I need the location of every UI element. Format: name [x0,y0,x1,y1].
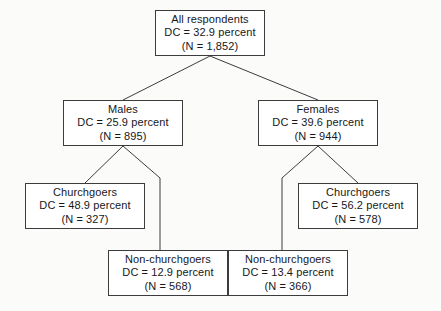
node-males-churchgoers-dc: DC = 48.9 percent [39,199,130,213]
node-females-label: Females [297,103,340,117]
node-all-respondents-dc: DC = 32.9 percent [164,26,255,40]
node-males-n: (N = 895) [99,130,146,144]
edge-females-to-churchgoers [318,146,358,183]
node-males-non-churchgoers: Non-churchgoers DC = 12.9 percent (N = 5… [108,250,228,296]
node-females-n: (N = 944) [294,130,341,144]
node-males-non-churchgoers-dc: DC = 12.9 percent [122,266,213,280]
edge-all-respondents-to-males [123,56,210,100]
node-males-non-churchgoers-n: (N = 568) [144,280,191,294]
node-males-churchgoers-label: Churchgoers [53,186,117,200]
node-females-churchgoers-dc: DC = 56.2 percent [312,199,403,213]
node-females-churchgoers-label: Churchgoers [326,186,390,200]
node-males-dc: DC = 25.9 percent [77,116,168,130]
edge-all-respondents-to-females [210,56,318,100]
node-males-non-churchgoers-label: Non-churchgoers [125,253,211,267]
node-all-respondents-label: All respondents [171,13,248,27]
node-females-non-churchgoers: Non-churchgoers DC = 13.4 percent (N = 3… [228,250,348,296]
node-males-churchgoers-n: (N = 327) [61,213,108,227]
node-females-churchgoers: Churchgoers DC = 56.2 percent (N = 578) [298,183,418,229]
node-males-label: Males [108,103,138,117]
node-females-non-churchgoers-n: (N = 366) [264,280,311,294]
tree-diagram: All respondents DC = 32.9 percent (N = 1… [0,0,441,311]
node-all-respondents: All respondents DC = 32.9 percent (N = 1… [155,10,265,56]
node-females-dc: DC = 39.6 percent [272,116,363,130]
node-males: Males DC = 25.9 percent (N = 895) [63,100,183,146]
node-females-non-churchgoers-label: Non-churchgoers [245,253,331,267]
node-females-non-churchgoers-dc: DC = 13.4 percent [242,266,333,280]
node-females: Females DC = 39.6 percent (N = 944) [258,100,378,146]
node-females-churchgoers-n: (N = 578) [334,213,381,227]
edge-males-to-churchgoers [85,146,123,183]
node-all-respondents-n: (N = 1,852) [182,40,238,54]
node-males-churchgoers: Churchgoers DC = 48.9 percent (N = 327) [25,183,145,229]
